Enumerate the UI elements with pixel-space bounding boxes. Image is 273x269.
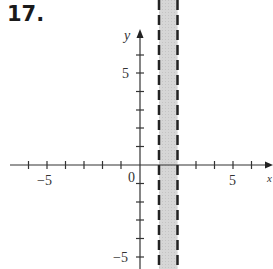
origin-label: 0: [128, 170, 135, 185]
x-tick-label-5: 5: [229, 173, 236, 188]
x-axis: [10, 161, 273, 169]
y-axis-arrow-icon: [137, 29, 144, 38]
shaded-region: [159, 0, 178, 269]
y-tick-label-5: 5: [122, 66, 129, 81]
y-axis: [136, 29, 144, 269]
y-axis-label: y: [122, 28, 131, 43]
x-tick-label-neg5: −5: [37, 173, 52, 188]
coordinate-plane: y 5 −5 −5 0 5 x: [0, 0, 273, 269]
x-axis-arrow-icon: [265, 162, 273, 169]
x-axis-label: x: [266, 172, 272, 184]
y-tick-label-neg5: −5: [113, 250, 128, 265]
